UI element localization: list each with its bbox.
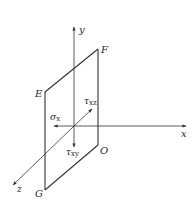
x-axis-label: x bbox=[181, 128, 187, 139]
tau-xy-label: τxy bbox=[66, 147, 79, 158]
z-axis-label: z bbox=[16, 184, 22, 194]
vertex-o-label: O bbox=[100, 145, 108, 156]
diagram-svg: y x z F E O G τxz σx τxy bbox=[0, 0, 196, 206]
tau-xz-arrow bbox=[74, 109, 92, 126]
stress-diagram: y x z F E O G τxz σx τxy bbox=[0, 0, 196, 206]
sigma-x-label: σx bbox=[50, 112, 60, 123]
vertex-f-label: F bbox=[100, 44, 109, 55]
edge-ef bbox=[45, 49, 98, 92]
y-axis-label: y bbox=[78, 24, 85, 35]
z-axis bbox=[13, 126, 74, 185]
tau-xz-label: τxz bbox=[84, 96, 97, 107]
vertex-e-label: E bbox=[34, 88, 43, 99]
vertex-g-label: G bbox=[35, 188, 43, 199]
